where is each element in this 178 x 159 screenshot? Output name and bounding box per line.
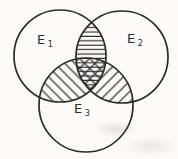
set-label-e3: E3 [74,101,90,118]
venn-diagram: E1 E2 E3 [0,0,178,159]
set-label-e2: E2 [127,31,143,48]
set-label-e1: E1 [37,32,53,49]
scanned-figure: E1 E2 E3 [0,0,178,159]
